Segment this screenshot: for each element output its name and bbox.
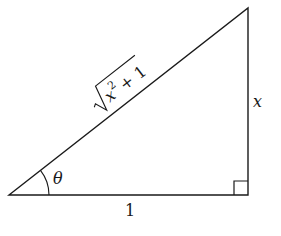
right-angle-marker: [234, 181, 248, 195]
triangle-outline: [9, 8, 248, 195]
right-triangle-diagram: θ 1 x x 2 + 1: [0, 0, 281, 236]
vertical-side-label: x: [253, 92, 262, 111]
angle-arc: [41, 170, 50, 195]
angle-label: θ: [53, 169, 63, 188]
hypotenuse-rest: + 1: [112, 62, 150, 98]
horizontal-side-label: 1: [125, 201, 135, 220]
hypotenuse-label: x 2 + 1: [84, 55, 150, 115]
